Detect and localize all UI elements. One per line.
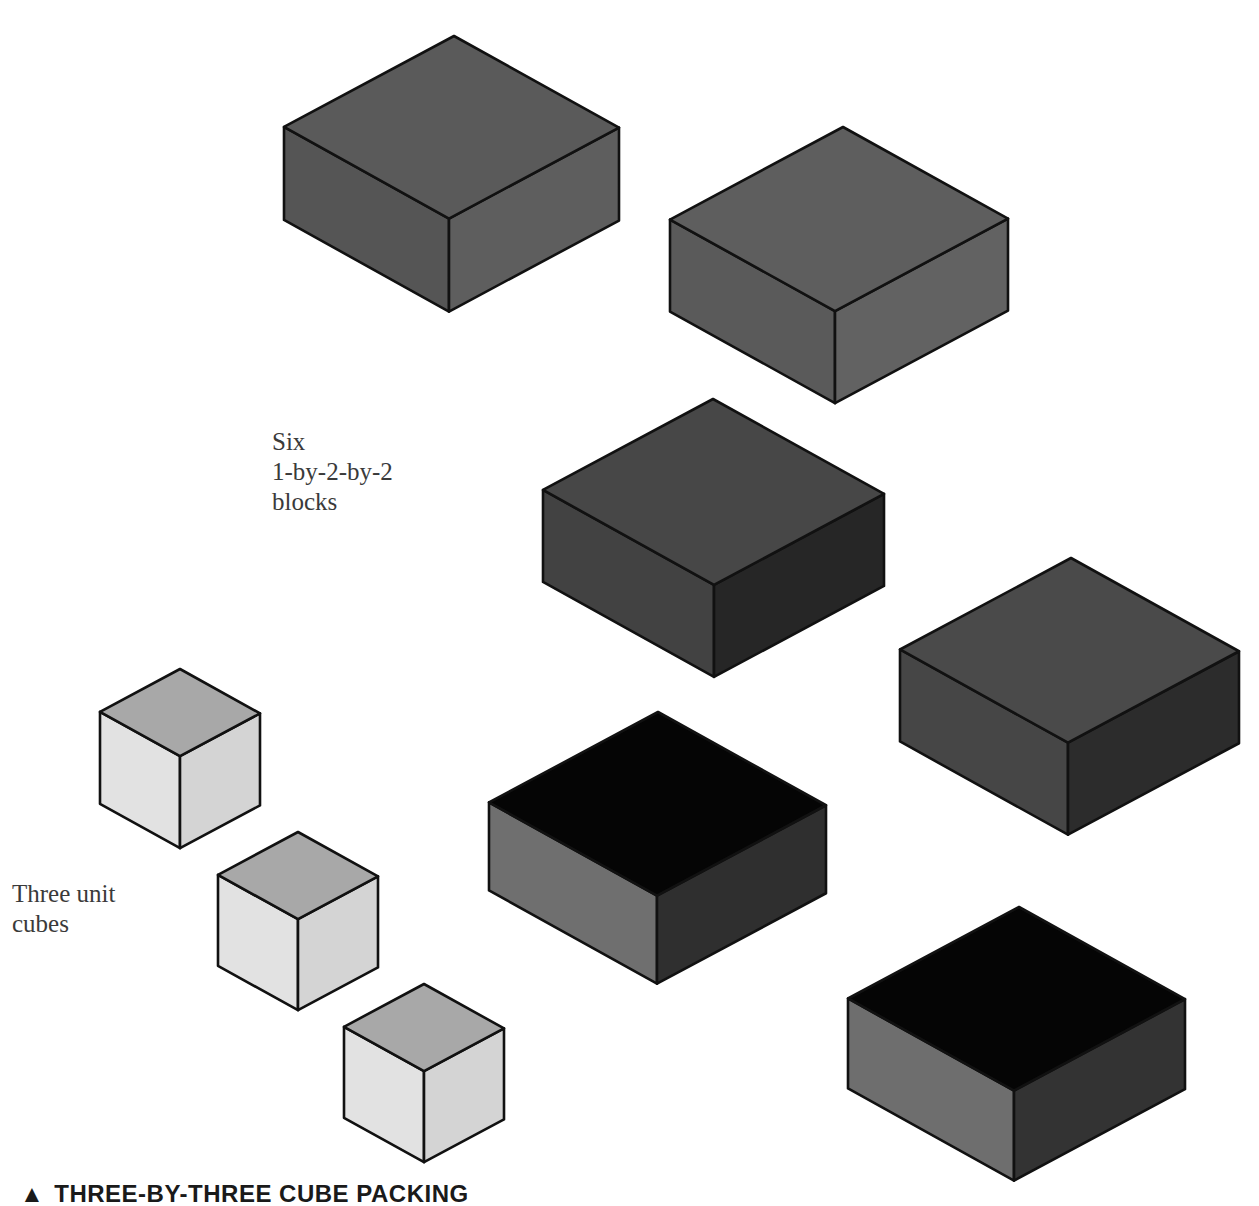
triangle-marker-icon: ▲ [20, 1180, 44, 1206]
cube-3 [344, 984, 504, 1162]
block-2 [670, 127, 1008, 403]
cubes-label: Three unit cubes [12, 879, 115, 939]
block-1 [284, 36, 619, 312]
figure-caption: ▲THREE-BY-THREE CUBE PACKING [20, 1180, 469, 1206]
block-5 [489, 712, 826, 984]
caption-text: THREE-BY-THREE CUBE PACKING [54, 1180, 468, 1206]
cube-2 [218, 832, 378, 1010]
cube-1 [100, 669, 260, 848]
block-4 [900, 558, 1239, 835]
blocks-label: Six 1-by-2-by-2 blocks [272, 427, 393, 517]
block-3 [543, 399, 884, 677]
block-6 [848, 907, 1185, 1181]
